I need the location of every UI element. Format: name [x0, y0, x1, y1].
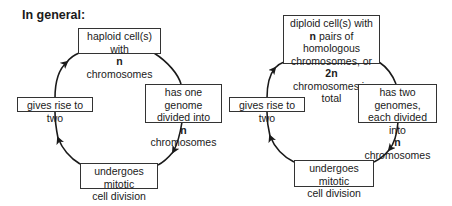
mitotic-division-box-right: undergoes mitotic cell division	[294, 160, 374, 187]
one-genome-line2: divided into	[157, 111, 210, 123]
mitotic-line1: undergoes mitotic	[94, 165, 144, 190]
one-genome-line3: chromosomes	[151, 136, 217, 148]
haploid-line2: chromosomes	[87, 68, 153, 80]
n-symbol: n	[116, 55, 122, 67]
two-genomes-box: has two genomes, each divided into n chr…	[358, 84, 437, 123]
mitotic-line2: cell division	[307, 187, 361, 199]
n-symbol: n	[180, 124, 186, 136]
one-genome-box: has one genome divided into n chromosome…	[145, 84, 222, 123]
haploid-line1: haploid cell(s) with	[87, 30, 152, 55]
one-genome-line1: has one genome	[165, 86, 203, 111]
2n-symbol: 2n	[325, 67, 337, 79]
diploid-line1: diploid cell(s) with	[290, 17, 373, 29]
gives-rise-box-right: gives rise to two	[229, 97, 305, 112]
mitotic-line2: cell division	[92, 190, 146, 202]
haploid-cell-box: haploid cell(s) with n chromosomes	[78, 28, 161, 54]
two-genomes-line1: has two genomes,	[374, 86, 420, 111]
two-genomes-line3: chromosomes	[365, 149, 431, 161]
mitotic-line1: undergoes mitotic	[309, 162, 359, 187]
mitotic-division-box-left: undergoes mitotic cell division	[80, 163, 158, 189]
gives-rise-box-left: gives rise to two	[17, 97, 93, 112]
n-symbol: n	[394, 136, 400, 148]
diploid-line3: chromosomes, or	[291, 55, 372, 67]
diploid-cell-box: diploid cell(s) with n pairs of homologo…	[283, 15, 380, 64]
